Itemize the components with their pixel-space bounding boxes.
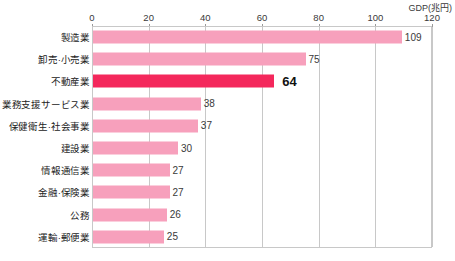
x-tick-label: 120 — [424, 12, 440, 23]
category-label: 金融·保険業 — [38, 185, 90, 199]
bar-value-label: 38 — [204, 98, 215, 109]
bar — [93, 53, 306, 66]
bar-value-label: 26 — [170, 209, 181, 220]
category-label: 不動産業 — [51, 74, 90, 88]
bar — [93, 31, 402, 44]
category-label: 公務 — [70, 208, 90, 222]
bar-row: 金融·保険業27 — [0, 181, 455, 203]
bar — [93, 186, 170, 199]
category-label: 製造業 — [61, 30, 90, 44]
category-label: 運輸·郵便業 — [38, 230, 90, 244]
bar — [93, 119, 198, 132]
bar — [93, 208, 167, 221]
bar — [93, 230, 164, 243]
bar-row: 運輸·郵便業25 — [0, 226, 455, 248]
bar-row: 製造業109 — [0, 26, 455, 48]
category-label: 情報通信業 — [41, 163, 90, 177]
category-label: 業務支援サービス業 — [2, 97, 90, 111]
bar-value-label: 64 — [282, 74, 296, 89]
bar-value-label: 25 — [167, 231, 178, 242]
x-tick-label: 20 — [143, 12, 154, 23]
bar-row: 情報通信業27 — [0, 159, 455, 181]
x-tick-label: 80 — [313, 12, 324, 23]
bar-value-label: 109 — [405, 32, 422, 43]
bar-value-label: 37 — [201, 120, 212, 131]
category-label: 保健衛生·社会事業 — [9, 119, 90, 133]
category-label: 建設業 — [61, 141, 90, 155]
bar-row: 公務26 — [0, 204, 455, 226]
bar-value-label: 27 — [173, 165, 184, 176]
bar-row: 卸売·小売業75 — [0, 48, 455, 70]
bar-row: 業務支援サービス業38 — [0, 93, 455, 115]
x-tick-label: 40 — [200, 12, 211, 23]
bar-row: 保健衛生·社会事業37 — [0, 115, 455, 137]
category-label: 卸売·小売業 — [38, 52, 90, 66]
x-tick-label: 100 — [367, 12, 383, 23]
bar-value-label: 75 — [309, 54, 320, 65]
bar-value-label: 27 — [173, 187, 184, 198]
bar-value-label: 30 — [181, 143, 192, 154]
bar — [93, 142, 178, 155]
gdp-bar-chart: GDP(兆円) 020406080100120 製造業109卸売·小売業75不動… — [0, 0, 455, 261]
x-tick-label: 60 — [257, 12, 268, 23]
bar-row: 不動産業64 — [0, 70, 455, 92]
bar-row: 建設業30 — [0, 137, 455, 159]
bar — [93, 164, 170, 177]
bar — [93, 97, 201, 110]
x-tick-label: 0 — [89, 12, 94, 23]
bar-highlighted — [93, 75, 274, 88]
